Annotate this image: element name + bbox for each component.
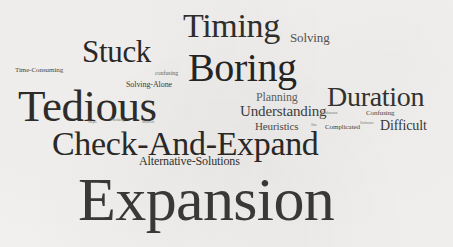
cloud-word: Planning (256, 91, 298, 103)
cloud-word: Stuck (82, 36, 151, 67)
cloud-word: Complicated (325, 124, 360, 131)
cloud-word: Thinking (110, 118, 124, 122)
cloud-word: Expansion (78, 168, 334, 230)
cloud-word: Software (360, 121, 374, 125)
cloud-word: Duration (327, 83, 424, 111)
cloud-word: Indirect (142, 120, 154, 124)
cloud-word: Understanding (240, 104, 326, 119)
cloud-word: Alternative-Solutions (139, 155, 240, 167)
cloud-word: Unknown (322, 111, 338, 115)
cloud-word: Solving (290, 31, 330, 44)
cloud-word: Difficult (380, 119, 427, 133)
cloud-word: Site (311, 123, 317, 127)
word-cloud: ExpansionTediousCheck-And-ExpandBoringTi… (0, 0, 453, 247)
cloud-word: Boring (188, 48, 297, 88)
cloud-word: confusing (155, 70, 178, 76)
cloud-word: Confusing (366, 110, 395, 117)
cloud-word: Steps (88, 120, 96, 124)
cloud-word: Timing (183, 9, 280, 43)
cloud-word: Heuristics (255, 121, 299, 132)
cloud-word: Solving-Alone (126, 81, 172, 89)
cloud-word: Time-Consuming (15, 67, 63, 74)
